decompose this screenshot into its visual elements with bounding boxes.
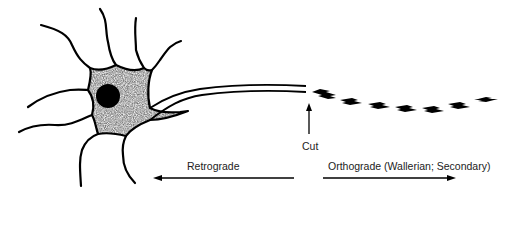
retrograde-arrow — [153, 175, 294, 181]
retrograde-label: Retrograde — [187, 160, 240, 172]
nucleus — [96, 84, 120, 108]
soma — [88, 65, 188, 136]
cut-label: Cut — [302, 140, 318, 152]
degenerating-axon-fragments — [312, 89, 498, 113]
orthograde-arrow — [323, 175, 456, 181]
orthograde-label: Orthograde (Wallerian; Secondary) — [328, 160, 490, 172]
cut-arrow — [306, 103, 312, 134]
